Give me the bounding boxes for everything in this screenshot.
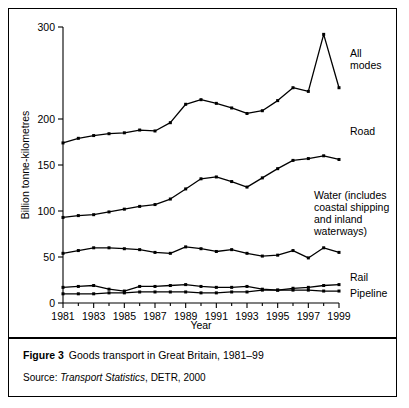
series-line-0 xyxy=(63,34,339,143)
y-axis: 050100150200300 Billion tonne-kilometres xyxy=(19,21,63,309)
data-point xyxy=(292,249,295,252)
data-point xyxy=(77,137,80,140)
source-prefix: Source: xyxy=(23,372,57,383)
data-point xyxy=(92,213,95,216)
data-point xyxy=(338,290,341,293)
goods-transport-line-chart: 050100150200300 Billion tonne-kilometres… xyxy=(9,9,396,339)
series-labels-group: AllmodesRoadWater (includescoastal shipp… xyxy=(313,47,389,299)
data-point xyxy=(338,86,341,89)
data-point xyxy=(200,98,203,101)
y-tick-label: 300 xyxy=(37,21,55,33)
series-label-2: coastal shipping xyxy=(314,201,389,213)
data-point xyxy=(92,246,95,249)
series-label-4: Pipeline xyxy=(350,287,388,299)
data-point xyxy=(215,175,218,178)
y-tick-label: 200 xyxy=(37,113,55,125)
data-point xyxy=(169,198,172,201)
data-point xyxy=(184,103,187,106)
source-rest: , DETR, 2000 xyxy=(145,372,206,383)
series-label-2: waterways) xyxy=(313,225,367,237)
series-label-3: Rail xyxy=(350,271,368,283)
x-tick-label: 1985 xyxy=(113,310,137,322)
data-point xyxy=(322,154,325,157)
data-point xyxy=(169,284,172,287)
data-point xyxy=(154,129,157,132)
data-point xyxy=(276,99,279,102)
data-point xyxy=(108,246,111,249)
data-point xyxy=(92,284,95,287)
data-point xyxy=(138,290,141,293)
x-tick-label: 1981 xyxy=(51,310,75,322)
data-point xyxy=(307,289,310,292)
x-tick-label: 1987 xyxy=(143,310,167,322)
source-title: Transport Statistics xyxy=(60,372,145,383)
data-point xyxy=(169,121,172,124)
series-label-2: and inland xyxy=(314,213,363,225)
data-point xyxy=(200,291,203,294)
series-label-0: All xyxy=(350,47,362,59)
data-point xyxy=(230,286,233,289)
series-label-2: Water (includes xyxy=(314,189,387,201)
data-point xyxy=(246,290,249,293)
data-point xyxy=(77,292,80,295)
data-point xyxy=(62,141,65,144)
y-axis-title: Billion tonne-kilometres xyxy=(19,111,31,220)
data-series-group xyxy=(63,34,339,293)
x-tick-label: 1995 xyxy=(266,310,290,322)
data-point xyxy=(154,251,157,254)
x-tick-label: 1999 xyxy=(327,310,351,322)
data-point xyxy=(92,134,95,137)
data-point xyxy=(108,288,111,291)
data-point xyxy=(123,247,126,250)
data-point xyxy=(138,285,141,288)
data-point xyxy=(62,286,65,289)
x-tick-label: 1983 xyxy=(82,310,106,322)
data-point xyxy=(276,167,279,170)
data-point xyxy=(77,214,80,217)
data-point xyxy=(261,255,264,258)
x-axis-ticks xyxy=(63,303,339,308)
data-point xyxy=(338,283,341,286)
y-tick-label: 150 xyxy=(37,159,55,171)
data-point xyxy=(77,249,80,252)
data-point xyxy=(292,159,295,162)
data-point xyxy=(276,289,279,292)
series-line-1 xyxy=(63,156,339,218)
data-point xyxy=(338,251,341,254)
data-point xyxy=(322,290,325,293)
series-label-1: Road xyxy=(350,125,375,137)
data-point xyxy=(307,286,310,289)
data-point xyxy=(108,132,111,135)
data-point xyxy=(184,245,187,248)
data-point xyxy=(184,283,187,286)
figure-caption-text: Goods transport in Great Britain, 1981–9… xyxy=(69,349,264,361)
y-axis-ticks xyxy=(58,27,63,303)
data-point xyxy=(200,177,203,180)
data-point xyxy=(77,285,80,288)
data-point xyxy=(154,285,157,288)
data-point xyxy=(154,203,157,206)
x-tick-label: 1993 xyxy=(235,310,259,322)
chart-plot-area: 050100150200300 Billion tonne-kilometres… xyxy=(9,9,396,339)
caption-block: Figure 3Goods transport in Great Britain… xyxy=(9,339,396,396)
figure-card: 050100150200300 Billion tonne-kilometres… xyxy=(8,8,397,397)
data-point xyxy=(200,285,203,288)
x-axis-title: Year xyxy=(190,319,212,331)
data-point xyxy=(169,290,172,293)
data-point xyxy=(292,86,295,89)
data-point xyxy=(123,131,126,134)
data-point xyxy=(338,158,341,161)
x-tick-label: 1997 xyxy=(297,310,321,322)
series-label-0: modes xyxy=(350,59,382,71)
data-point xyxy=(62,292,65,295)
data-point xyxy=(200,247,203,250)
data-point xyxy=(261,109,264,112)
data-point xyxy=(108,210,111,213)
data-point xyxy=(123,291,126,294)
data-point xyxy=(215,286,218,289)
data-point xyxy=(307,157,310,160)
y-axis-tick-labels: 050100150200300 xyxy=(37,21,55,309)
data-point xyxy=(62,216,65,219)
x-axis: 1981198319851987198919911993199519971999… xyxy=(51,303,351,331)
data-point xyxy=(215,250,218,253)
